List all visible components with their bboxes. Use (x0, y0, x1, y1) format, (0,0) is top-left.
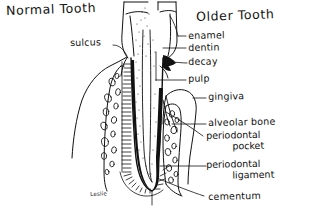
normal-crown-enamel-outline (122, 2, 148, 58)
label-enamel: enamel (188, 30, 225, 41)
label-alveolar-bone: alveolar bone (208, 117, 276, 129)
dental-diagram-canvas: Normal Tooth Older Tooth sulcus enamel d… (0, 0, 313, 211)
older-crown-enamel-outline (158, 2, 177, 59)
normal-periodontal-ligament-hatching (122, 62, 131, 172)
pulp-chamber-and-canal (142, 30, 152, 182)
normal-gingiva-outline (72, 57, 127, 158)
label-gingiva: gingiva (208, 91, 244, 102)
dentin-stipple-texture (136, 8, 157, 175)
artist-signature: Leslie (90, 188, 107, 199)
label-periodontal-ligament-line2: ligament (206, 169, 274, 181)
normal-enamel-dentin-junction (130, 16, 134, 56)
label-decay: decay (188, 56, 218, 67)
label-pulp: pulp (188, 74, 210, 85)
title-older-tooth: Older Tooth (196, 9, 275, 22)
label-sulcus: sulcus (70, 37, 101, 48)
title-normal-tooth: Normal Tooth (6, 3, 96, 17)
label-periodontal-pocket-line2: pocket (206, 140, 264, 152)
older-bone-marrow-cells (164, 110, 179, 183)
older-enamel-dentin-junction (168, 14, 171, 56)
label-periodontal-pocket: periodontal pocket (206, 130, 264, 152)
label-periodontal-ligament: periodontal ligament (206, 159, 274, 181)
label-cementum: cementum (208, 191, 261, 203)
label-dentin: dentin (188, 42, 220, 53)
